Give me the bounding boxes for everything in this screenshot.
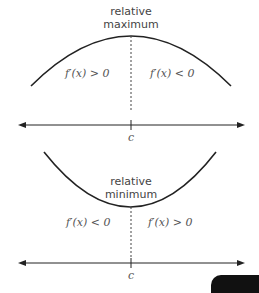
min-right-derivative: f′(x) > 0 xyxy=(148,216,193,229)
max-label-line2: maximum xyxy=(96,18,166,31)
min-left-derivative: f′(x) < 0 xyxy=(66,216,111,229)
max-right-derivative: f′(x) < 0 xyxy=(150,67,195,80)
min-label: relative minimum xyxy=(96,175,166,201)
max-left-derivative: f′(x) > 0 xyxy=(65,67,110,80)
min-label-line1: relative xyxy=(96,175,166,188)
corner-overlay xyxy=(211,275,259,293)
top-c-label: c xyxy=(128,131,134,144)
diagram-canvas xyxy=(0,0,259,293)
right-arrow-icon xyxy=(237,260,245,266)
right-arrow-icon xyxy=(237,122,245,128)
max-label-line1: relative xyxy=(96,5,166,18)
bottom-c-label: c xyxy=(128,269,134,282)
left-arrow-icon xyxy=(18,122,26,128)
left-arrow-icon xyxy=(18,260,26,266)
min-label-line2: minimum xyxy=(96,188,166,201)
max-label: relative maximum xyxy=(96,5,166,31)
